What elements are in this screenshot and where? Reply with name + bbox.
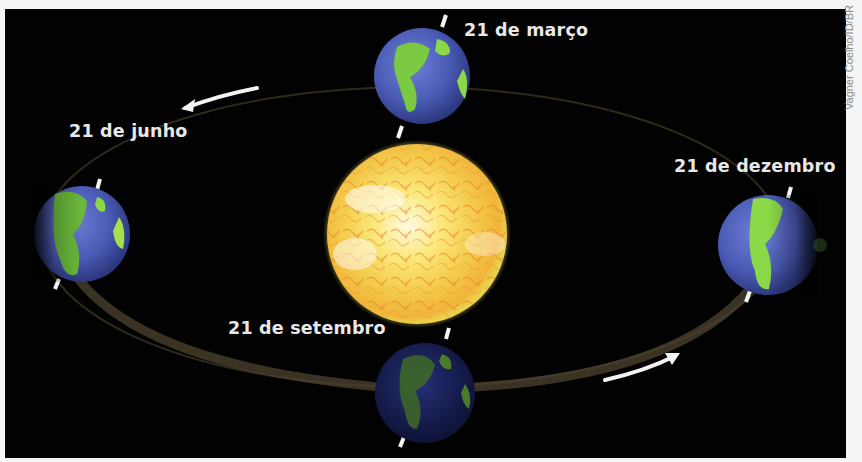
- image-credit: Vagner Coelho/ID/BR: [836, 0, 862, 110]
- label-march: 21 de março: [464, 20, 588, 40]
- label-june: 21 de junho: [69, 121, 188, 141]
- orbit-diagram-svg: [5, 9, 846, 458]
- orbit-diagram-panel: 21 de março 21 de junho 21 de setembro 2…: [5, 9, 846, 458]
- earth-september: [375, 328, 475, 447]
- earth-march: [374, 15, 470, 138]
- sun: [323, 140, 511, 328]
- earth-june: [34, 179, 130, 289]
- earth-december: [718, 187, 827, 302]
- label-december: 21 de dezembro: [674, 156, 836, 176]
- label-september: 21 de setembro: [228, 318, 386, 338]
